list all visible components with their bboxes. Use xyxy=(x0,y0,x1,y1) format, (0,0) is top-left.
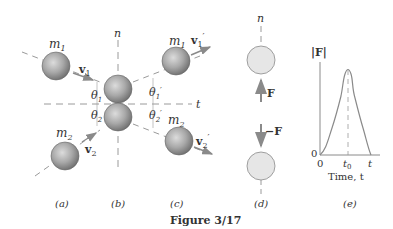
m2-label-c: m2 xyxy=(168,113,184,129)
n-axis-label: n xyxy=(114,27,121,40)
pale-sphere-top xyxy=(247,46,275,74)
panel-label-d: (d) xyxy=(254,198,268,209)
m1-label-a: m1 xyxy=(49,37,65,53)
sphere-m2-after xyxy=(165,127,193,155)
v1-label: v1 xyxy=(78,63,91,78)
figure-3-17: m1 v1 m2 v2 n t θ1 θ2 m1 v1′ m2 v2′ θ1′ … xyxy=(0,0,393,229)
panel-e: |F| 0 0 t0 t Time, t (e) xyxy=(311,46,380,209)
t-axis-label: t xyxy=(196,98,201,111)
sphere-m2-contact xyxy=(104,103,132,131)
theta1-label: θ1 xyxy=(91,89,102,104)
sphere-m2-before xyxy=(51,142,79,170)
panel-d: n F −F (d) xyxy=(247,12,282,209)
v2-arrow xyxy=(82,133,96,142)
x-origin-label: 0 xyxy=(317,158,323,169)
force-minus-F-label: −F xyxy=(265,125,282,138)
x-axis-title: Time, t xyxy=(328,171,364,182)
panel-label-a: (a) xyxy=(55,198,69,209)
sphere-m1-contact xyxy=(104,75,132,103)
m1-label-c: m1 xyxy=(169,34,185,50)
v2-label: v2 xyxy=(84,143,97,158)
t-tick-label: t xyxy=(368,158,373,169)
sphere-m1-after xyxy=(162,47,190,75)
figure-caption: Figure 3/17 xyxy=(170,214,241,227)
theta1-prime-label: θ1′ xyxy=(149,85,162,101)
v1-prime-label: v1′ xyxy=(190,32,205,49)
pale-sphere-bottom xyxy=(247,152,275,180)
panel-label-b: (b) xyxy=(111,198,125,209)
theta2-prime-label: θ2′ xyxy=(149,108,162,124)
panel-label-c: (c) xyxy=(170,198,184,209)
force-F-label: F xyxy=(267,87,275,100)
m2-label-a: m2 xyxy=(56,126,72,142)
n-axis-label-d: n xyxy=(257,12,264,25)
panel-label-e: (e) xyxy=(343,198,357,209)
sphere-m1-before xyxy=(42,52,70,80)
force-curve xyxy=(320,70,371,156)
v2-prime-label: v2′ xyxy=(195,133,210,150)
collision-panels: m1 v1 m2 v2 n t θ1 θ2 m1 v1′ m2 v2′ θ1′ … xyxy=(22,27,212,209)
t0-tick-label: t0 xyxy=(343,158,352,171)
theta2-label: θ2 xyxy=(91,109,103,124)
y-axis-label: |F| xyxy=(311,46,327,59)
